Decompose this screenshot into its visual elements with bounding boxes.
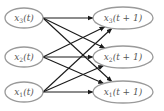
dependency-diagram: x3(t)x2(t)x1(t)x3(t + 1)x2(t + 1)x1(t + … [0,0,164,111]
node-x1t1: x1(t + 1) [93,81,153,103]
node-label: x2(t) [14,52,34,63]
node-x3t: x3(t) [5,8,43,28]
node-x2t: x2(t) [5,47,43,67]
node-x1t: x1(t) [5,82,43,102]
nodes-group: x3(t)x2(t)x1(t)x3(t + 1)x2(t + 1)x1(t + … [5,7,153,103]
node-x3t1: x3(t + 1) [93,7,153,29]
node-label: x3(t) [14,13,34,24]
node-x2t1: x2(t + 1) [93,46,153,68]
node-label: x1(t) [14,87,34,98]
